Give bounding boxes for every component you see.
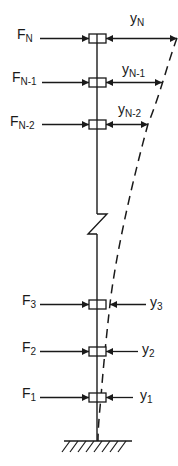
column-break-symbol — [88, 214, 107, 234]
displacement-label: y3 — [150, 294, 163, 312]
force-label: F1 — [22, 385, 37, 403]
level-n-2: FN-2 yN-2 — [10, 101, 148, 131]
level-n: FN yN — [17, 10, 177, 44]
level-1: F1 y1 — [22, 385, 153, 405]
force-label: F2 — [22, 339, 37, 357]
deflection-curve — [98, 38, 177, 441]
force-label: FN-2 — [10, 113, 35, 131]
displacement-label: yN — [130, 10, 144, 28]
level-n-1: FN-1 yN-1 — [12, 61, 162, 87]
force-label: FN — [17, 26, 33, 44]
displacement-label: yN-2 — [118, 101, 142, 119]
displacement-label: yN-1 — [122, 61, 146, 79]
level-3: F3 y3 — [22, 292, 163, 312]
level-2: F2 y2 — [22, 339, 155, 359]
fixed-support — [62, 441, 132, 452]
structural-diagram: FN yN FN-1 yN-1 FN-2 yN-2 F3 y3 F2 y2 — [0, 0, 178, 466]
displacement-label: y2 — [142, 341, 155, 359]
force-label: F3 — [22, 292, 37, 310]
force-label: FN-1 — [12, 69, 37, 87]
displacement-label: y1 — [140, 387, 153, 405]
